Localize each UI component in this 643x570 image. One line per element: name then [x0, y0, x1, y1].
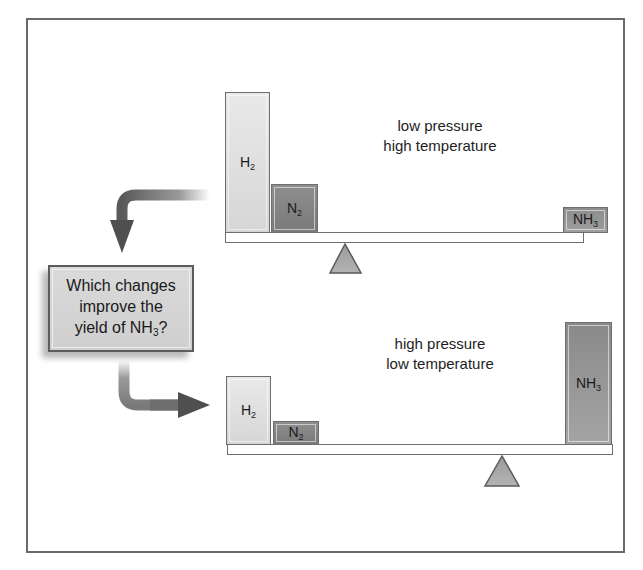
top-condition-temperature: high temperature [340, 136, 540, 156]
arrow-from-question-icon [124, 360, 210, 418]
bottom-h2-block: H2 [226, 376, 271, 445]
top-fulcrum-icon [330, 244, 361, 273]
top-h2-label: H2 [240, 154, 255, 172]
top-scale-beam [225, 232, 584, 243]
top-n2-label: N2 [287, 200, 302, 218]
question-line-3: yield of NH3? [66, 317, 175, 343]
bottom-fulcrum-icon [485, 456, 519, 486]
bottom-condition-temperature: low temperature [340, 354, 540, 374]
bottom-conditions: high pressure low temperature [340, 334, 540, 374]
question-line-2: improve the [66, 296, 175, 317]
bottom-condition-pressure: high pressure [340, 334, 540, 354]
bottom-n2-label: N2 [288, 424, 303, 442]
arrow-to-question-icon [110, 195, 210, 253]
bottom-n2-block: N2 [273, 421, 319, 445]
top-n2-block: N2 [271, 184, 318, 233]
question-box: Which changes improve the yield of NH3? [48, 265, 194, 352]
top-conditions: low pressure high temperature [340, 116, 540, 156]
top-h2-block: H2 [225, 92, 270, 233]
top-condition-pressure: low pressure [340, 116, 540, 136]
bottom-h2-label: H2 [241, 402, 256, 420]
bottom-nh3-label: NH3 [576, 375, 601, 393]
bottom-nh3-block: NH3 [565, 322, 612, 445]
question-line-1: Which changes [66, 275, 175, 296]
top-nh3-label: NH3 [573, 211, 598, 229]
top-nh3-block: NH3 [563, 207, 608, 233]
bottom-scale-beam [227, 444, 613, 455]
